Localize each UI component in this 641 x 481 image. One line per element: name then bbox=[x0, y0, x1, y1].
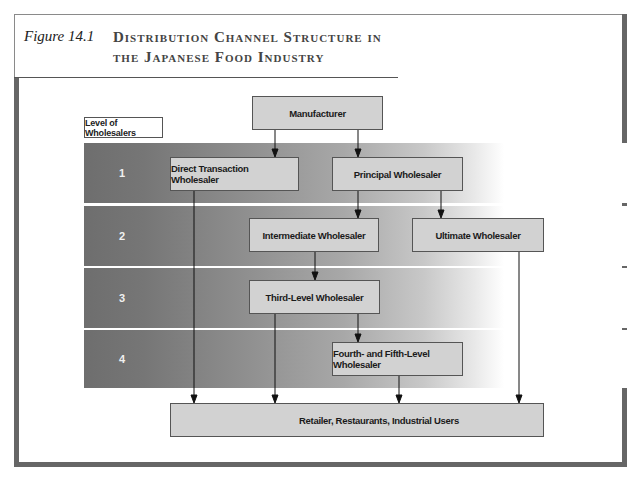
connector-arrows bbox=[0, 0, 641, 481]
